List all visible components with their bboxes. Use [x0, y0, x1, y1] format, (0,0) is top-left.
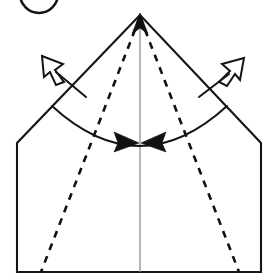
right-open-arrow — [199, 58, 244, 97]
left-open-arrow — [42, 56, 86, 97]
origami-diagram-svg — [0, 0, 272, 278]
origami-diagram-canvas: Origami fold step diagram — [0, 0, 272, 278]
arc-arrowhead-right — [141, 132, 166, 152]
arc-arrowhead-left — [114, 132, 139, 152]
step-number-circle — [20, 0, 58, 13]
